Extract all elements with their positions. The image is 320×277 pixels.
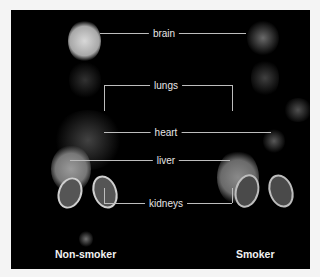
caption-smoker: Smoker xyxy=(236,248,275,260)
nonsmoker-brain xyxy=(68,20,101,62)
label-heart: heart xyxy=(151,127,182,138)
caption-non-smoker: Non-smoker xyxy=(55,248,116,260)
lungs-line-right xyxy=(232,85,233,111)
kidneys-line-right xyxy=(232,188,233,203)
label-kidneys: kidneys xyxy=(145,198,187,209)
pet-scan-panel: brain lungs heart liver kidneys Non-smok… xyxy=(11,10,310,269)
liver-line xyxy=(70,160,230,161)
kidneys-line-left xyxy=(104,188,105,203)
heart-line xyxy=(104,132,271,133)
nonsmoker-bladder xyxy=(79,230,93,248)
smoker-shoulder xyxy=(283,98,310,122)
label-brain: brain xyxy=(149,28,179,39)
smoker-neck xyxy=(251,58,279,98)
label-liver: liver xyxy=(153,155,179,166)
lungs-line-left xyxy=(104,85,105,111)
nonsmoker-kidney-right xyxy=(88,172,122,212)
smoker-brain xyxy=(247,20,279,56)
label-lungs: lungs xyxy=(150,80,182,91)
nonsmoker-neck xyxy=(69,60,101,100)
smoker-kidney-right xyxy=(264,171,298,211)
